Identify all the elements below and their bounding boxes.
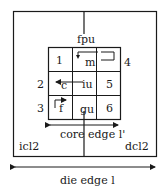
cell-gu: gu xyxy=(80,104,94,115)
side-number-3: 3 xyxy=(37,103,44,114)
cell-1: 1 xyxy=(56,55,63,66)
cell-f: f xyxy=(59,103,63,114)
diagram-lines xyxy=(0,0,166,191)
dcl2-label: dcl2 xyxy=(125,141,149,152)
cell-5: 5 xyxy=(106,79,113,90)
cell-iu: iu xyxy=(82,79,93,90)
side-number-4: 4 xyxy=(124,57,131,68)
cell-c: c xyxy=(61,80,67,91)
die-edge-label: die edge l xyxy=(60,175,115,186)
side-number-2: 2 xyxy=(37,79,44,90)
core-edge-label: core edge l' xyxy=(60,129,125,140)
fpu-label: fpu xyxy=(77,34,95,45)
bracket-icon xyxy=(101,52,114,60)
icl2-label: icl2 xyxy=(19,141,39,152)
cell-m: m xyxy=(85,57,95,68)
cell-6: 6 xyxy=(106,103,113,114)
